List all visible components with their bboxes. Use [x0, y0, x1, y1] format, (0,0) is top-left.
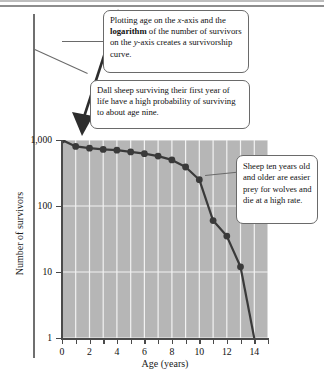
x-axis-tick — [158, 338, 159, 344]
x-axis-tick — [268, 338, 269, 344]
x-axis-tick — [186, 338, 187, 344]
callout-axes-explanation: Plotting age on the x-axis and the logar… — [103, 10, 249, 73]
x-axis-tick — [76, 338, 77, 344]
y-axis-tick-label: 1,000 — [2, 134, 52, 145]
x-axis-tick-label: 8 — [162, 346, 182, 357]
x-axis-tick — [254, 338, 255, 344]
x-axis-tick — [103, 338, 104, 344]
x-axis-tick — [199, 338, 200, 344]
x-axis-tick-label: 12 — [217, 346, 237, 357]
callout-ten-years-mortality: Sheep ten years old and older are easier… — [236, 155, 318, 224]
y-axis-title: Number of survivors — [14, 172, 25, 296]
y-axis-line — [61, 140, 63, 339]
x-axis-tick-label: 2 — [80, 346, 100, 357]
x-axis-tick — [131, 338, 132, 344]
callout-ten-years-text: Sheep ten years old and older are easier… — [243, 161, 312, 205]
x-axis-tick — [117, 338, 118, 344]
x-axis-tick — [213, 338, 214, 344]
callout-first-year-text: Dall sheep surviving their first year of… — [97, 85, 236, 117]
x-axis-tick-label: 0 — [52, 346, 72, 357]
x-axis-tick — [227, 338, 228, 344]
y-axis-tick — [56, 140, 62, 141]
x-axis-tick-label: 4 — [107, 346, 127, 357]
x-axis-tick — [62, 338, 63, 344]
y-axis-tick-label: 100 — [2, 200, 52, 211]
x-axis-tick-label: 10 — [189, 346, 209, 357]
survivorship-curve-figure: Plotting age on the x-axis and the logar… — [0, 0, 324, 378]
y-axis-tick — [56, 206, 62, 207]
y-axis-tick — [56, 272, 62, 273]
x-axis-tick — [90, 338, 91, 344]
x-axis-title: Age (years) — [62, 358, 268, 369]
y-axis-tick-label: 10 — [2, 266, 52, 277]
x-axis-tick — [144, 338, 145, 344]
callout-first-year-survival: Dall sheep surviving their first year of… — [90, 80, 250, 129]
page-top-edge-rule — [0, 0, 324, 2]
x-axis-tick — [241, 338, 242, 344]
x-axis-tick-label: 6 — [134, 346, 154, 357]
page-left-rule — [33, 14, 35, 358]
y-axis-tick-label: 1 — [2, 332, 52, 343]
callout-axes-text-2: -axis and the — [181, 15, 225, 25]
callout-axes-bold-logarithm: logarithm — [110, 26, 147, 36]
x-axis-tick — [172, 338, 173, 344]
x-axis-tick-label: 14 — [244, 346, 264, 357]
x-axis-line — [61, 338, 269, 340]
callout-axes-text-1: Plotting age on the — [110, 15, 178, 25]
cropped-box-bottom-rule — [0, 5, 324, 7]
